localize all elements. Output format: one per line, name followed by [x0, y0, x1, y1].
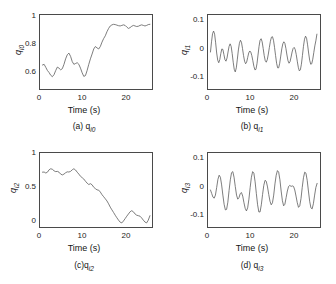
x-tick-c-0: 0: [33, 231, 45, 240]
data-series-d: [210, 171, 317, 212]
x-tick-b-1: 10: [243, 93, 257, 102]
x-tick-c-2: 20: [119, 231, 133, 240]
x-tick-c-1: 10: [75, 231, 89, 240]
plot-area-c: [39, 152, 153, 228]
x-axis-label-b: Time (s): [168, 105, 336, 115]
plot-area-d: [207, 152, 321, 228]
y-tick-c-0: 1: [14, 148, 36, 157]
x-axis-label-a: Time (s): [0, 105, 168, 115]
subplot-d: qi3 0.1 0 -0.1 0 10 20 Time (s) (d) qi3: [168, 142, 336, 284]
plot-area-a: [39, 14, 153, 90]
x-axis-label-d: Time (s): [168, 243, 336, 253]
subplot-b: qi1 0.1 0 -0.1 0 10 20 Time (s) (b) qi1: [168, 0, 336, 142]
data-series-c: [42, 169, 149, 223]
x-tick-b-0: 0: [201, 93, 213, 102]
y-tick-b-2: -0.1: [173, 72, 204, 81]
x-tick-d-2: 20: [287, 231, 301, 240]
y-tick-d-1: 0: [176, 182, 204, 191]
x-tick-a-1: 10: [75, 93, 89, 102]
y-tick-b-1: 0: [176, 44, 204, 53]
caption-a: (a) qi0: [0, 121, 168, 133]
caption-d: (d) qi3: [168, 260, 336, 272]
x-axis-label-c: Time (s): [0, 243, 168, 253]
y-axis-label-a: qi0: [13, 30, 25, 70]
y-tick-a-1: 0.8: [8, 39, 36, 48]
x-tick-a-0: 0: [33, 93, 45, 102]
plot-area-b: [207, 14, 321, 90]
y-tick-a-0: 1: [14, 11, 36, 20]
caption-c: (c)qi2: [0, 260, 168, 272]
y-tick-c-2: 0: [14, 216, 36, 225]
y-tick-d-0: 0.1: [176, 153, 204, 162]
y-tick-d-2: -0.1: [173, 210, 204, 219]
data-series-a: [42, 24, 149, 76]
y-tick-c-1: 0.5: [8, 182, 36, 191]
x-tick-d-0: 0: [201, 231, 213, 240]
x-tick-a-2: 20: [119, 93, 133, 102]
data-series-b: [210, 31, 316, 72]
y-tick-a-2: 0.6: [8, 67, 36, 76]
plot-svg-d: [208, 153, 320, 227]
caption-b: (b) qi1: [168, 121, 336, 133]
subplot-grid: qi0 1 0.8 0.6 0 10 20 Time (s) (a) qi0 q…: [0, 0, 336, 284]
plot-svg-b: [208, 15, 320, 89]
subplot-a: qi0 1 0.8 0.6 0 10 20 Time (s) (a) qi0: [0, 0, 168, 142]
x-tick-d-1: 10: [243, 231, 257, 240]
x-tick-b-2: 20: [287, 93, 301, 102]
plot-svg-c: [40, 153, 152, 227]
plot-svg-a: [40, 15, 152, 89]
y-tick-b-0: 0.1: [176, 15, 204, 24]
subplot-c: qi2 1 0.5 0 0 10 20 Time (s) (c)qi2: [0, 142, 168, 284]
